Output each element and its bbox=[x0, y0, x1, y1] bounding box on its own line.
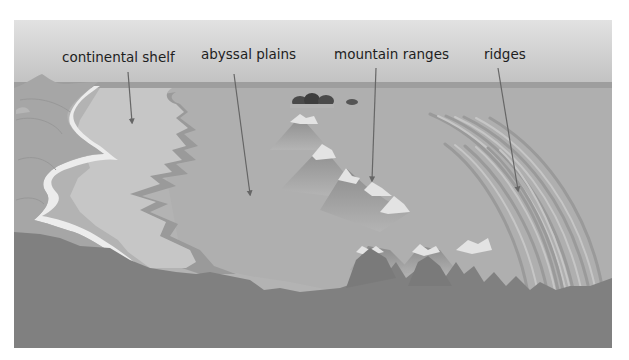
label-mountain-ranges: mountain ranges bbox=[334, 46, 449, 62]
label-continental-shelf: continental shelf bbox=[62, 49, 176, 65]
label-abyssal-plains: abyssal plains bbox=[201, 46, 296, 62]
label-ridges: ridges bbox=[484, 46, 526, 62]
ocean-floor-diagram: continental shelf abyssal plains mountai… bbox=[0, 0, 629, 360]
